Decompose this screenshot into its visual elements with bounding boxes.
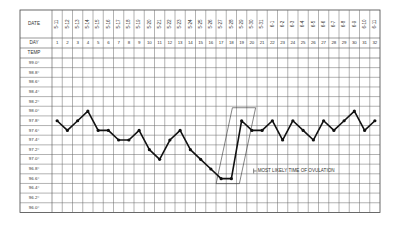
date-label: 5-17 bbox=[116, 19, 121, 29]
day-label: 20 bbox=[249, 40, 254, 45]
data-point bbox=[343, 119, 346, 122]
temp-tick-label: 98.4° bbox=[29, 89, 40, 94]
data-point bbox=[199, 158, 202, 161]
data-point bbox=[322, 119, 325, 122]
date-label: 5-18 bbox=[126, 19, 131, 29]
date-label: 5-30 bbox=[249, 19, 254, 29]
temp-tick-label: 98.6° bbox=[29, 79, 40, 84]
temp-tick-label: 98.2° bbox=[29, 99, 40, 104]
date-label: 5-29 bbox=[239, 19, 244, 29]
temp-tick-label: 96.6° bbox=[29, 176, 40, 181]
data-point bbox=[220, 177, 223, 180]
day-label: 6 bbox=[107, 40, 110, 45]
chart-labels: DATEDAYTEMP99.0°98.8°98.6°98.4°98.2°98.0… bbox=[28, 19, 378, 210]
date-label: 6-7 bbox=[331, 20, 336, 27]
data-point bbox=[332, 129, 335, 132]
data-point bbox=[97, 129, 100, 132]
data-point bbox=[66, 129, 69, 132]
data-point bbox=[209, 167, 212, 170]
day-label: 15 bbox=[198, 40, 203, 45]
data-point bbox=[261, 129, 264, 132]
data-point bbox=[281, 138, 284, 141]
data-point bbox=[76, 119, 79, 122]
date-label: 6-5 bbox=[311, 20, 316, 27]
date-label: 5-14 bbox=[85, 19, 90, 29]
date-label: 5-24 bbox=[188, 19, 193, 29]
data-point bbox=[353, 109, 356, 112]
date-label: 5-11 bbox=[54, 19, 59, 28]
date-label: 5-27 bbox=[218, 19, 223, 29]
day-label: 12 bbox=[167, 40, 172, 45]
data-point bbox=[363, 129, 366, 132]
data-point bbox=[373, 119, 376, 122]
day-label: 17 bbox=[219, 40, 224, 45]
date-label: 5-22 bbox=[167, 19, 172, 29]
data-point bbox=[250, 129, 253, 132]
data-point bbox=[168, 138, 171, 141]
day-label: 5 bbox=[97, 40, 100, 45]
temp-tick-label: 96.2° bbox=[29, 195, 40, 200]
data-point bbox=[158, 158, 161, 161]
day-label: 8 bbox=[128, 40, 131, 45]
day-label: 32 bbox=[372, 40, 377, 45]
day-label: 13 bbox=[178, 40, 183, 45]
data-point bbox=[56, 119, 59, 122]
temp-tick-label: 96.8° bbox=[29, 166, 40, 171]
date-label: 6-9 bbox=[352, 20, 357, 27]
temp-tick-label: 96.0° bbox=[29, 205, 40, 210]
day-label: 16 bbox=[208, 40, 213, 45]
temp-tick-label: 97.0° bbox=[29, 156, 40, 161]
data-point bbox=[271, 119, 274, 122]
day-label: 3 bbox=[76, 40, 79, 45]
day-label: 22 bbox=[270, 40, 275, 45]
data-point bbox=[179, 129, 182, 132]
data-point bbox=[240, 119, 243, 122]
day-label: 18 bbox=[229, 40, 234, 45]
day-label: 26 bbox=[311, 40, 316, 45]
date-label: 5-20 bbox=[147, 19, 152, 29]
data-point bbox=[117, 138, 120, 141]
date-label: 6-3 bbox=[290, 20, 295, 27]
day-label: 7 bbox=[117, 40, 120, 45]
date-label: 5-26 bbox=[208, 19, 213, 29]
temp-tick-label: 97.4° bbox=[29, 137, 40, 142]
ovulation-annotation: MOST LIKELY TIME OF OVULATION bbox=[216, 108, 334, 184]
temp-tick-label: 97.8° bbox=[29, 118, 40, 123]
date-label: 5-21 bbox=[157, 19, 162, 29]
temp-tick-label: 98.8° bbox=[29, 70, 40, 75]
ovulation-annotation-text: MOST LIKELY TIME OF OVULATION bbox=[258, 168, 335, 173]
data-point bbox=[107, 129, 110, 132]
day-label: 24 bbox=[290, 40, 295, 45]
bbt-chart: DATEDAYTEMP99.0°98.8°98.6°98.4°98.2°98.0… bbox=[0, 0, 398, 226]
day-label: 4 bbox=[87, 40, 90, 45]
temp-tick-label: 97.6° bbox=[29, 128, 40, 133]
data-point bbox=[138, 129, 141, 132]
date-label: 6-8 bbox=[341, 20, 346, 27]
data-point bbox=[127, 138, 130, 141]
date-label: 6-10 bbox=[362, 19, 367, 29]
data-point bbox=[312, 138, 315, 141]
day-label: 10 bbox=[147, 40, 152, 45]
date-label: 5-16 bbox=[106, 19, 111, 29]
temp-row-label: TEMP bbox=[28, 50, 41, 55]
day-label: 23 bbox=[280, 40, 285, 45]
temp-tick-label: 96.4° bbox=[29, 185, 40, 190]
date-label: 5-23 bbox=[177, 19, 182, 29]
date-label: 6-2 bbox=[280, 20, 285, 27]
date-label: 5-28 bbox=[229, 19, 234, 29]
day-row-label: DAY bbox=[29, 40, 38, 45]
date-label: 6-4 bbox=[300, 20, 305, 27]
day-label: 21 bbox=[260, 40, 265, 45]
data-point bbox=[230, 177, 233, 180]
date-label: 5-15 bbox=[95, 19, 100, 29]
day-label: 31 bbox=[362, 40, 367, 45]
temp-tick-label: 99.0° bbox=[29, 60, 40, 65]
data-point bbox=[291, 119, 294, 122]
date-label: 5-13 bbox=[75, 19, 80, 29]
day-label: 1 bbox=[56, 40, 59, 45]
ovulation-box bbox=[216, 108, 256, 184]
day-label: 9 bbox=[138, 40, 141, 45]
date-label: 6-6 bbox=[321, 20, 326, 27]
day-label: 25 bbox=[301, 40, 306, 45]
date-label: 6-1 bbox=[270, 20, 275, 27]
